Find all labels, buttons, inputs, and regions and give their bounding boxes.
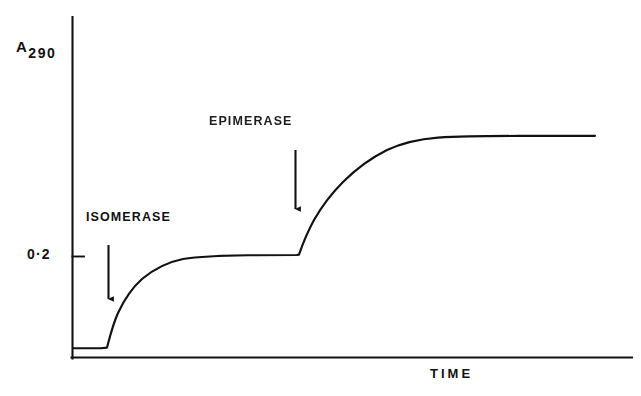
figure-canvas: A290 0·2 TIME ISOMERASE EPIMERASE [0, 0, 641, 396]
y-axis-tick-label-0-2: 0·2 [27, 246, 51, 262]
y-axis-label-subscript: 290 [28, 45, 56, 61]
plot-area [0, 0, 641, 396]
isomerase-annotation-label: ISOMERASE [86, 210, 171, 224]
x-axis-title: TIME [430, 366, 473, 381]
epimerase-annotation-label: EPIMERASE [209, 114, 293, 128]
y-axis-label: A290 [16, 38, 56, 61]
y-axis-label-main: A [16, 38, 27, 55]
a290-progress-curve [73, 136, 595, 348]
